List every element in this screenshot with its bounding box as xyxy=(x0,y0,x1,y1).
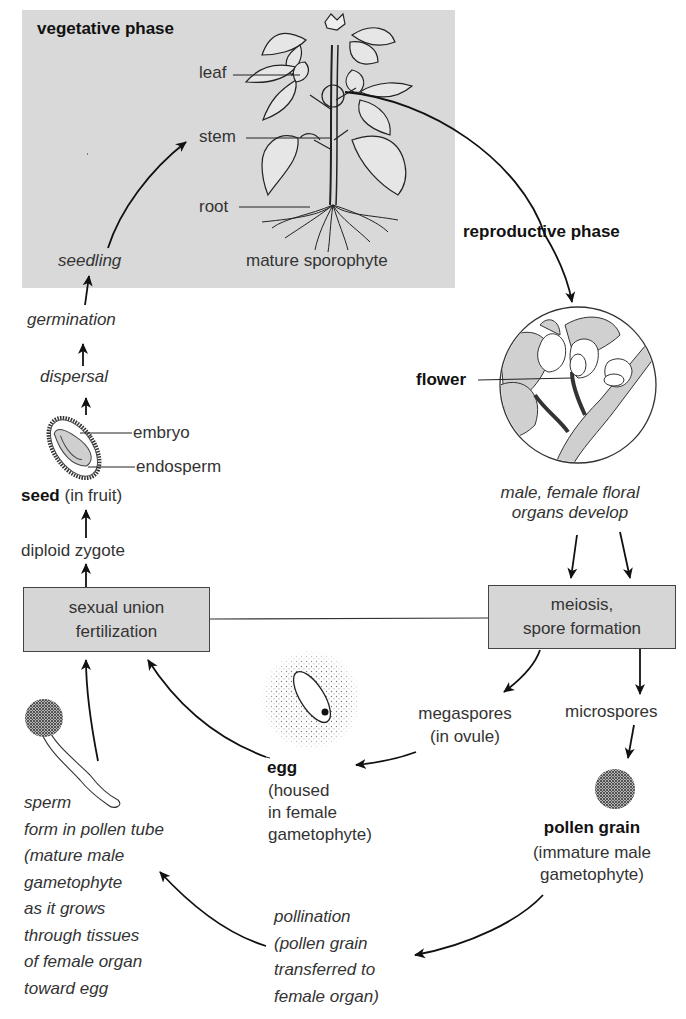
meiosis-line2: spore formation xyxy=(523,617,641,641)
pollination-line1: pollination xyxy=(274,904,379,931)
pollen-grain-description: (immature male gametophyte) xyxy=(512,842,672,886)
pollination-line3: transferred to xyxy=(274,957,379,984)
meiosis-line1: meiosis, xyxy=(523,593,641,617)
germination-label: germination xyxy=(27,310,116,330)
plant-illustration xyxy=(246,14,412,252)
sperm-line1: sperm xyxy=(24,790,164,817)
pollen-grain-illustration xyxy=(595,769,635,809)
megaspores-line1: megaspores xyxy=(405,702,525,725)
pollen-desc-line2: gametophyte) xyxy=(512,864,672,886)
pollination-line2: (pollen grain xyxy=(274,931,379,958)
mature-sporophyte-caption: mature sporophyte xyxy=(246,251,388,271)
sperm-line6: through tissues xyxy=(24,923,164,950)
floral-caption-line1: male, female floral xyxy=(470,483,670,503)
endosperm-label: endosperm xyxy=(136,457,221,477)
sperm-line4: gametophyte xyxy=(24,870,164,897)
embryo-label: embryo xyxy=(133,423,190,443)
fertilization-box: sexual union fertilization xyxy=(23,587,210,652)
dispersal-label: dispersal xyxy=(40,367,108,387)
seed-bold: seed xyxy=(21,486,60,505)
sperm-line2: form in pollen tube xyxy=(24,817,164,844)
egg-desc-line2: in female xyxy=(268,802,372,824)
seedling-label: seedling xyxy=(58,251,121,271)
seed-illustration xyxy=(38,409,110,488)
vegetative-phase-title: vegetative phase xyxy=(37,19,174,39)
floral-caption-line2: organs develop xyxy=(470,503,670,523)
egg-description: (housed in female gametophyte) xyxy=(268,780,372,846)
pollination-description: pollination (pollen grain transferred to… xyxy=(274,904,379,1010)
fertilization-line1: sexual union xyxy=(69,596,164,620)
leaf-label: leaf xyxy=(199,63,226,83)
egg-label: egg xyxy=(267,758,297,778)
pollination-line4: female organ) xyxy=(274,984,379,1011)
pollen-desc-line1: (immature male xyxy=(512,842,672,864)
seed-label: seed (in fruit) xyxy=(21,486,122,506)
megaspores-line2: (in ovule) xyxy=(405,725,525,748)
pollen-grain-label: pollen grain xyxy=(512,818,672,838)
stem-label: stem xyxy=(199,127,236,147)
egg-illustration xyxy=(260,649,362,751)
sperm-description: sperm form in pollen tube (mature male g… xyxy=(24,790,164,1002)
megaspores-label: megaspores (in ovule) xyxy=(405,702,525,748)
sperm-line7: of female organ xyxy=(24,949,164,976)
sperm-line3: (mature male xyxy=(24,843,164,870)
fertilization-line2: fertilization xyxy=(69,620,164,644)
flower-illustration xyxy=(500,307,660,470)
meiosis-box: meiosis, spore formation xyxy=(488,585,676,649)
sperm-line8: toward egg xyxy=(24,976,164,1003)
reproductive-phase-title: reproductive phase xyxy=(463,222,620,242)
floral-organs-caption: male, female floral organs develop xyxy=(470,483,670,523)
egg-desc-line3: gametophyte) xyxy=(268,824,372,846)
flower-label: flower xyxy=(416,370,466,390)
microspores-label: microspores xyxy=(565,702,658,722)
root-label: root xyxy=(199,197,228,217)
sperm-line5: as it grows xyxy=(24,896,164,923)
seed-in-fruit: (in fruit) xyxy=(60,486,122,505)
egg-desc-line1: (housed xyxy=(268,780,372,802)
life-cycle-diagram: vegetative phase leaf stem root mature s… xyxy=(0,0,686,1019)
diploid-zygote-label: diploid zygote xyxy=(21,541,125,561)
